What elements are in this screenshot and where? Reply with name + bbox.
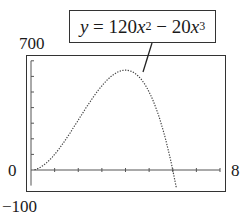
- eq-coef-b: 20: [172, 16, 191, 38]
- eq-var-1: x: [137, 16, 145, 38]
- equation-callout: y = 120x2 − 20x3: [69, 10, 216, 43]
- eq-coef-a: 120: [109, 16, 138, 38]
- eq-var-2: x: [191, 16, 199, 38]
- eq-equals: =: [88, 16, 108, 38]
- axes: [31, 61, 220, 186]
- eq-lhs: y: [80, 16, 88, 38]
- eq-minus: −: [151, 16, 171, 38]
- callout-pointer: [143, 43, 152, 72]
- eq-exp-2: 3: [199, 19, 205, 34]
